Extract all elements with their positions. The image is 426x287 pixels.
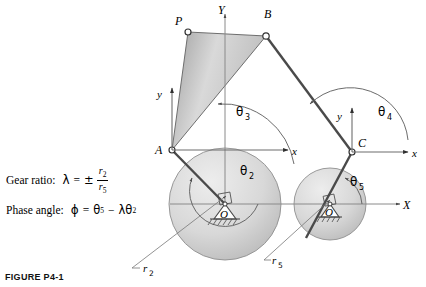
phase-angle-minus: − [108,204,115,216]
theta3-symbol: θ [236,105,243,119]
gear-ratio-label: Gear ratio: [6,174,56,186]
figure-canvas: P B A C O O Y X y x y x θ 2 θ 3 θ 4 θ 5 … [0,0,426,287]
label-theta4: θ 4 [378,105,392,122]
label-r2: r 2 [143,262,154,278]
mechanism-diagram: P B A C O O Y X y x y x θ 2 θ 3 θ 4 θ 5 … [0,0,426,287]
r2-num-subscript: 2 [103,170,107,179]
label-point-p: P [174,14,183,28]
lambda-theta2-symbol: λθ [119,203,133,217]
link-4 [266,36,352,152]
gear-ratio-expression: λ = ± r2 r5 [63,166,110,194]
label-pivot-o2: O [220,208,228,220]
theta5-term-symbol: θ [93,203,100,217]
lambda-theta2-subscript: 2 [132,206,136,215]
plus-minus-sign: ± [84,173,94,187]
theta4-symbol: θ [378,105,385,119]
phase-angle-label: Phase angle: [6,204,64,216]
label-local-x-axis-a: x [291,145,297,157]
r2-subscript: 2 [149,269,154,278]
phase-angle-expression: ϕ = θ5 − λθ2 [71,203,136,217]
theta4-subscript: 4 [387,113,392,122]
label-local-y-axis-c: y [336,110,342,122]
r5-den-subscript: 5 [103,186,107,195]
label-theta3: θ 3 [236,105,250,122]
theta5-term-subscript: 5 [100,206,104,215]
pin-joint-b [263,33,269,39]
link-3-coupler [172,32,266,150]
gear-ratio-numerator: r2 [97,166,109,181]
label-r5: r 5 [272,254,283,270]
figure-caption: FIGURE P4-1 [5,272,64,282]
theta5-symbol: θ [350,175,357,189]
theta2-subscript: 2 [249,172,254,181]
theta5-subscript: 5 [359,183,364,192]
label-global-x-axis: X [402,198,411,212]
equations-block: Gear ratio: λ = ± r2 r5 Phase angle: ϕ =… [6,166,176,226]
label-local-y-axis-a: y [156,88,162,100]
equation-phase-angle: Phase angle: ϕ = θ5 − λθ2 [6,203,176,217]
phi-symbol: ϕ [71,203,79,217]
phase-angle-equals: = [83,204,90,216]
theta2-symbol: θ [240,164,247,178]
label-point-b: B [264,7,272,21]
gear-ratio-denominator: r5 [97,181,109,195]
r5-symbol: r [272,254,277,266]
label-point-c: C [358,136,367,150]
label-point-a: A [154,143,163,157]
pin-joint-p [185,29,191,35]
lambda-symbol: λ [63,173,70,187]
r2-symbol: r [143,262,148,274]
gear-ratio-fraction: r2 r5 [97,166,109,194]
gear-ratio-equals: = [74,174,81,186]
equation-gear-ratio: Gear ratio: λ = ± r2 r5 [6,166,176,194]
label-local-x-axis-c: x [411,147,417,159]
label-pivot-o5: O [325,206,333,218]
theta3-subscript: 3 [245,113,250,122]
r5-subscript: 5 [278,261,283,270]
